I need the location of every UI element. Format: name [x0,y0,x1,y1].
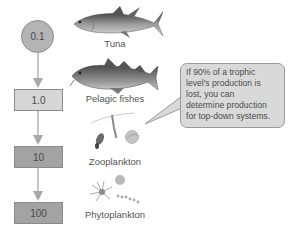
arrow-connectors [33,53,43,201]
zooplankton-icon [91,113,139,149]
organism-label-tuna: Tuna [104,38,125,49]
level-node-phytoplankton: 100 [14,202,63,224]
level-node-tuna: 0.1 [21,20,54,53]
organism-label-pelagic-fishes: Pelagic fishes [86,93,145,104]
arrow-icon [33,168,43,201]
organism-label-phytoplankton: Phytoplankton [85,209,145,220]
callout-line: for top-down systems. [186,111,279,122]
tuna-icon [74,6,163,38]
production-value: 1.0 [32,95,46,106]
production-value: 0.1 [31,31,45,42]
callout-line: lost, you can [186,89,279,100]
callout-line: level's production is [186,78,279,89]
production-value: 10 [33,152,44,163]
production-value: 100 [30,208,47,219]
callout-tail [145,96,182,124]
callout-line: determine production [186,100,279,111]
level-node-zooplankton: 10 [14,146,63,168]
arrow-icon [33,53,43,88]
organism-label-zooplankton: Zooplankton [89,156,141,167]
phytoplankton-icon [90,175,139,203]
callout-line: If 90% of a trophic [186,67,279,78]
pelagic-fish-icon [70,58,158,94]
arrow-icon [33,111,43,145]
callout-note: If 90% of a trophic level's production i… [180,63,285,128]
level-node-pelagic-fishes: 1.0 [14,89,63,111]
